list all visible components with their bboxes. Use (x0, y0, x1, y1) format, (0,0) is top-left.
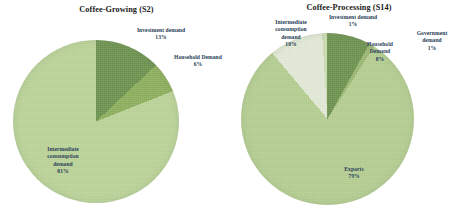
pie-label-intermediate-consumption-demand: Intermediate consumption demand 81% (24, 146, 102, 175)
pie-label-intermediate-consumption-demand: Intermediate consumption demand 10% (260, 19, 322, 48)
pie-label-exports: Exports 79% (325, 166, 383, 181)
page-title-coffee-processing: Coffee-Processing (S14) (233, 3, 465, 12)
chart-panel-coffee-processing: Coffee-Processing (S14) Intermediate con… (233, 0, 465, 208)
page-title-coffee-growing: Coffee-Growing (S2) (0, 5, 233, 14)
pie-slices-coffee-growing[interactable] (13, 40, 179, 203)
figure-canvas: Coffee-Growing (S2) Investment demand 13… (0, 0, 465, 208)
pie-label-household-demand: Household Demand 6% (163, 54, 233, 69)
pie-label-investment-demand: Investment demand 13% (124, 27, 198, 42)
paper-texture-overlay (13, 40, 179, 203)
pie-label-government-demand: Government demand 1% (403, 30, 461, 52)
chart-panel-coffee-growing: Coffee-Growing (S2) Investment demand 13… (0, 0, 233, 208)
pie-chart-coffee-growing (13, 40, 179, 203)
pie-label-investment-demand: Investment demand 1% (319, 14, 387, 29)
pie-label-household-demand: Household Demand 8% (357, 41, 403, 63)
